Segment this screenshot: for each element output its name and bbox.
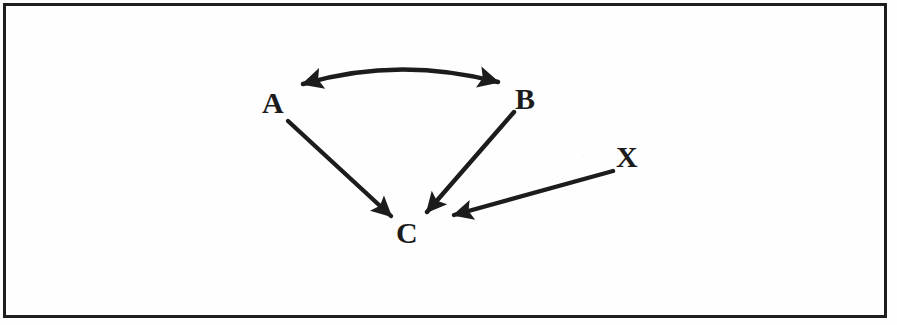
edge-a-to-c <box>288 121 391 216</box>
edge-b-to-a <box>303 69 498 84</box>
node-label-c: C <box>396 218 418 248</box>
node-label-b: B <box>515 84 535 114</box>
diagram-graphics <box>0 0 897 325</box>
edge-x-to-c <box>454 171 613 215</box>
node-label-a: A <box>262 88 284 118</box>
edge-b-to-c <box>427 112 514 212</box>
node-label-x: X <box>616 142 638 172</box>
figure-canvas: A B C X <box>0 0 897 325</box>
